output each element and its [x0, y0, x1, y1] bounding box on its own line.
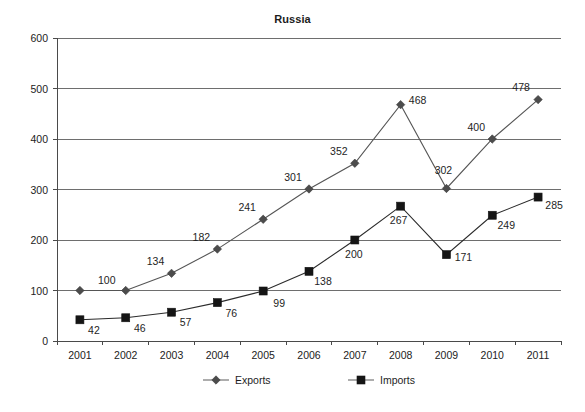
data-point-label-imports: 285 — [545, 199, 563, 211]
data-point-marker-exports — [76, 286, 84, 294]
chart-plot-area: 0100200300400500600 20012002200320042005… — [0, 0, 585, 412]
data-point-marker-imports — [76, 316, 84, 324]
y-axis-tick-label: 400 — [30, 133, 48, 145]
data-labels-imports: 4246577699138200267171249285 — [88, 199, 563, 336]
chart-legend: ExportsImports — [203, 374, 415, 386]
x-axis-tick-label: 2009 — [435, 349, 459, 361]
diamond-icon — [212, 376, 220, 384]
y-axis-tick-label: 100 — [30, 285, 48, 297]
data-point-label-exports: 100 — [98, 274, 116, 286]
square-icon — [357, 376, 365, 384]
data-point-marker-imports — [488, 211, 496, 219]
y-axis-tick-group: 0100200300400500600 — [30, 32, 57, 347]
data-point-marker-exports — [259, 215, 267, 223]
chart-container: Russia 0100200300400500600 2001200220032… — [0, 0, 585, 412]
data-point-marker-imports — [213, 299, 221, 307]
data-point-label-exports: 352 — [330, 145, 348, 157]
x-axis-tick-group: 2001200220032004200520062007200820092010… — [57, 341, 561, 361]
data-point-label-imports: 99 — [273, 297, 285, 309]
y-axis-tick-label: 200 — [30, 234, 48, 246]
data-point-marker-imports — [168, 308, 176, 316]
data-point-label-exports: 241 — [238, 201, 256, 213]
x-axis-tick-label: 2010 — [481, 349, 505, 361]
x-axis-tick-label: 2005 — [252, 349, 276, 361]
y-axis-tick-label: 500 — [30, 83, 48, 95]
data-point-marker-imports — [534, 193, 542, 201]
x-axis-tick-label: 2001 — [68, 349, 92, 361]
data-point-marker-exports — [305, 185, 313, 193]
data-point-marker-imports — [259, 287, 267, 295]
y-axis-tick-label: 0 — [42, 335, 48, 347]
data-point-label-imports: 200 — [345, 248, 363, 260]
data-point-label-imports: 249 — [498, 219, 516, 231]
legend-label-exports: Exports — [235, 374, 271, 386]
x-axis-tick-label: 2008 — [389, 349, 413, 361]
data-point-label-imports: 57 — [180, 316, 192, 328]
x-axis-tick-label: 2002 — [114, 349, 138, 361]
data-point-label-exports: 301 — [284, 171, 302, 183]
data-point-label-imports: 46 — [134, 322, 146, 334]
data-point-label-exports: 302 — [435, 164, 453, 176]
data-point-marker-imports — [442, 251, 450, 259]
data-point-label-exports: 478 — [512, 81, 530, 93]
gridlines-group — [57, 38, 561, 291]
data-point-label-imports: 267 — [390, 214, 408, 226]
data-point-marker-imports — [305, 267, 313, 275]
x-axis-tick-label: 2003 — [160, 349, 184, 361]
data-point-label-exports: 400 — [468, 121, 486, 133]
y-axis-tick-label: 300 — [30, 184, 48, 196]
x-axis-tick-label: 2007 — [343, 349, 367, 361]
y-axis-tick-label: 600 — [30, 32, 48, 44]
x-axis-tick-label: 2006 — [297, 349, 321, 361]
data-point-marker-exports — [122, 286, 130, 294]
x-axis-tick-label: 2011 — [527, 349, 550, 361]
data-point-marker-imports — [397, 202, 405, 210]
data-point-label-imports: 76 — [226, 307, 238, 319]
data-point-label-exports: 182 — [193, 231, 211, 243]
data-point-label-exports: 134 — [147, 255, 165, 267]
data-point-label-imports: 42 — [88, 324, 100, 336]
x-axis-tick-label: 2004 — [206, 349, 230, 361]
legend-label-imports: Imports — [380, 374, 415, 386]
data-point-marker-exports — [167, 269, 175, 277]
data-point-label-imports: 171 — [455, 251, 473, 263]
data-point-marker-imports — [351, 236, 359, 244]
data-point-label-exports: 468 — [409, 94, 427, 106]
data-point-label-imports: 138 — [314, 275, 332, 287]
data-point-marker-imports — [122, 314, 130, 322]
data-point-marker-exports — [213, 245, 221, 253]
